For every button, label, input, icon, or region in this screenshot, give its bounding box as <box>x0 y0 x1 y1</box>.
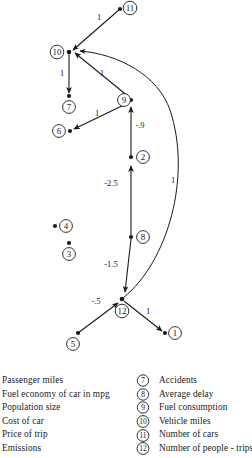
legend-right-label-10: Vehicle miles <box>151 415 211 429</box>
node-9[interactable]: 9 <box>118 94 131 107</box>
legend-item: 11 Number of cars <box>136 428 252 442</box>
edge-label-9-10: 1 <box>100 68 104 78</box>
legend-item: 8 Average delay <box>136 388 252 402</box>
legend-item: Population size <box>2 401 134 415</box>
node-7[interactable]: 7 <box>63 101 76 114</box>
edge-label-11-10: 1 <box>97 12 101 22</box>
legend-left-column: Passenger miles Fuel economy of car in m… <box>2 374 134 456</box>
node-1-label: 1 <box>173 328 178 338</box>
legend-item: 10 Vehicle miles <box>136 415 252 429</box>
node-2-label: 2 <box>141 152 146 162</box>
edge-11-to-10: 1 <box>73 7 122 50</box>
node-5-label: 5 <box>71 339 76 349</box>
legend-node-circle-icon: 11 <box>136 429 151 442</box>
edge-10-to-7: 1 <box>60 54 71 98</box>
node-2[interactable]: 2 <box>137 151 150 164</box>
legend-item: 9 Fuel consumption <box>136 401 252 415</box>
signed-digraph-figure: 1 1 1 1 -.9 -2.5 <box>0 0 252 458</box>
legend-item: Fuel economy of car in mpg <box>2 388 134 402</box>
node-3-label: 3 <box>67 249 72 259</box>
legend-right-column: 7 Accidents 8 Average delay 9 Fuel consu… <box>136 374 252 456</box>
edge-label-12-10: 1 <box>171 175 175 185</box>
node-11-label: 11 <box>126 3 135 13</box>
edge-label-5-12: -.5 <box>91 296 100 306</box>
legend-item: 7 Accidents <box>136 374 252 388</box>
legend-node-number: 11 <box>139 431 146 440</box>
legend-right-label-9: Fuel consumption <box>151 401 228 415</box>
node-4-label: 4 <box>64 221 69 231</box>
node-12-label: 12 <box>118 306 127 316</box>
edge-9-to-10: 1 <box>75 53 129 97</box>
legend-left-label-4: Cost of car <box>2 415 44 429</box>
legend-right-label-7: Accidents <box>151 374 197 388</box>
edge-8-to-2: -2.5 <box>104 155 133 235</box>
legend-node-number: 10 <box>139 417 147 426</box>
edge-label-10-7: 1 <box>60 68 64 78</box>
legend-left-label-1: Passenger miles <box>2 374 63 388</box>
legend-node-number: 7 <box>141 377 145 386</box>
node-7-label: 7 <box>67 102 72 112</box>
node-8-label: 8 <box>141 232 146 242</box>
edge-2-to-9: -.9 <box>129 98 145 155</box>
legend-right-label-12: Number of people - trips <box>151 442 252 456</box>
legend-node-number: 12 <box>139 445 147 454</box>
node-6[interactable]: 6 <box>53 125 66 138</box>
legend-left-label-3: Population size <box>2 401 61 415</box>
edge-label-8-2: -2.5 <box>104 178 117 188</box>
node-4[interactable]: 4 <box>60 220 73 233</box>
legend: Passenger miles Fuel economy of car in m… <box>0 374 252 458</box>
node-3[interactable]: 3 <box>63 248 76 261</box>
legend-node-circle-icon: 8 <box>136 388 151 401</box>
legend-item: 12 Number of people - trips <box>136 442 252 456</box>
edge-12-to-1: 1 <box>124 301 167 335</box>
legend-item: Cost of car <box>2 415 134 429</box>
legend-right-label-8: Average delay <box>151 388 214 402</box>
legend-right-label-11: Number of cars <box>151 428 218 442</box>
legend-node-circle-icon: 9 <box>136 401 151 414</box>
edge-12-to-10-curve: 1 <box>80 51 178 301</box>
junction-dot-12 <box>120 297 125 302</box>
edge-label-2-9: -.9 <box>135 120 144 130</box>
edge-label-12-8: -1.5 <box>104 259 117 269</box>
edge-label-9-6: 1 <box>95 108 99 118</box>
legend-item: Passenger miles <box>2 374 134 388</box>
graph-canvas: 1 1 1 1 -.9 -2.5 <box>0 0 252 368</box>
node-10[interactable]: 10 <box>50 45 64 59</box>
node-6-label: 6 <box>57 126 62 136</box>
legend-item: Price of trip <box>2 428 134 442</box>
legend-node-circle-icon: 7 <box>136 374 151 387</box>
edge-12-to-8: -1.5 <box>104 235 133 292</box>
node-12[interactable]: 12 <box>115 304 129 318</box>
legend-left-label-2: Fuel economy of car in mpg <box>2 388 110 402</box>
legend-node-circle-icon: 10 <box>136 415 151 428</box>
node-11[interactable]: 11 <box>123 1 137 15</box>
edge-9-to-6: 1 <box>68 103 128 133</box>
legend-node-number: 9 <box>141 404 145 413</box>
junction-dot-10 <box>67 50 72 55</box>
node-8[interactable]: 8 <box>137 231 150 244</box>
legend-left-label-5: Price of trip <box>2 428 48 442</box>
node-1[interactable]: 1 <box>169 327 182 340</box>
legend-item: Emissions <box>2 442 134 456</box>
node-9-label: 9 <box>122 95 127 105</box>
node-10-label: 10 <box>53 47 63 57</box>
node-dot-3 <box>67 241 71 245</box>
legend-left-label-6: Emissions <box>2 442 41 456</box>
edge-5-to-12: -.5 <box>76 296 118 335</box>
legend-node-number: 8 <box>141 390 145 399</box>
legend-node-circle-icon: 12 <box>136 442 151 455</box>
node-dot-4 <box>53 224 57 228</box>
edge-label-12-1: 1 <box>146 306 150 316</box>
node-5[interactable]: 5 <box>67 338 80 351</box>
